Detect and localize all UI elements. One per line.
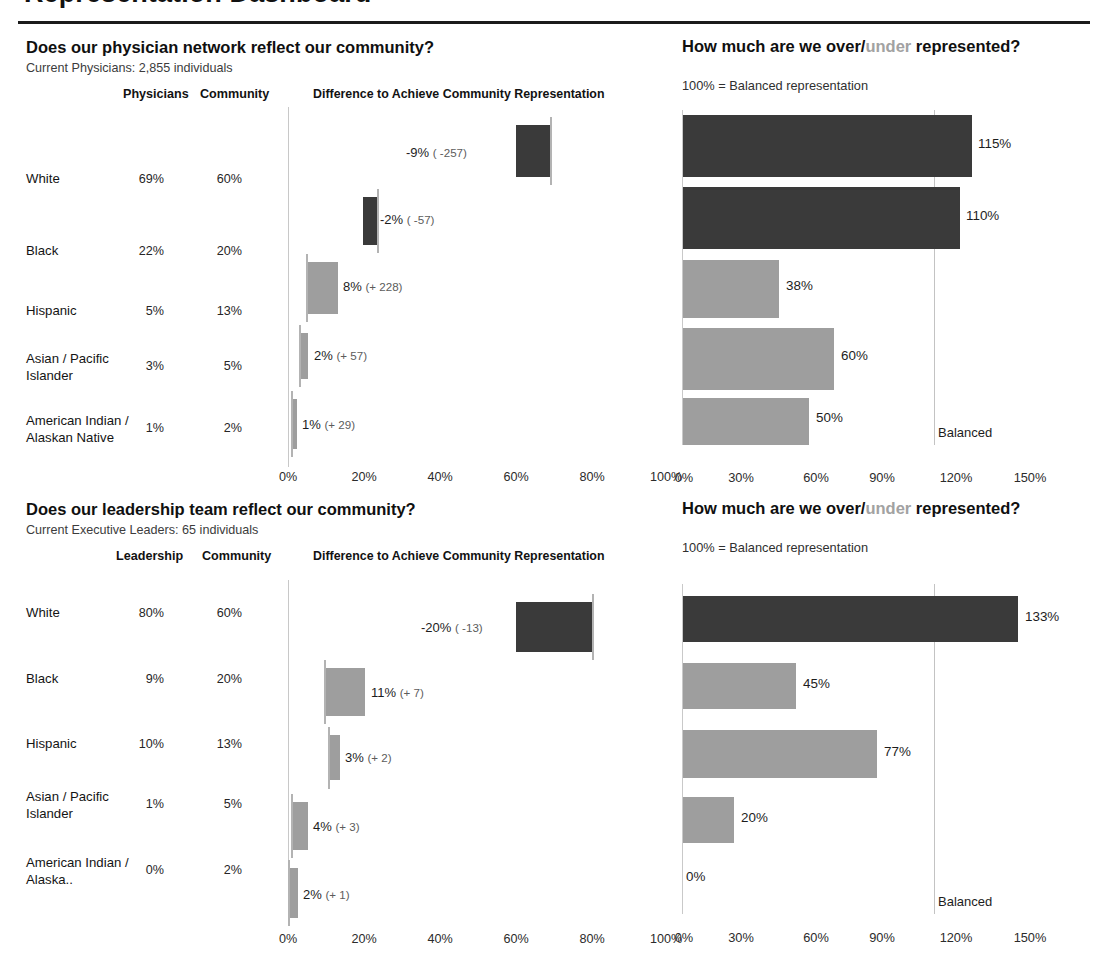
axis-tick-label: 150%	[1014, 930, 1047, 945]
target-tick	[299, 325, 301, 387]
difference-count: (+ 2)	[367, 751, 391, 764]
representation-bar	[683, 328, 834, 390]
difference-count: (+ 228)	[365, 280, 402, 293]
difference-count: ( -57)	[407, 213, 435, 226]
column-header-community: Community	[200, 87, 269, 101]
difference-label: -9% ( -257)	[406, 145, 467, 160]
difference-axis-ticks: 0% 20% 40% 60% 80% 100%	[288, 932, 678, 952]
axis-tick-label: 90%	[869, 470, 895, 485]
representation-value: 45%	[803, 676, 830, 691]
axis-tick-label: 90%	[869, 930, 895, 945]
difference-count: ( -257)	[433, 146, 467, 159]
difference-percent: 2%	[303, 887, 322, 902]
difference-bar	[516, 125, 550, 177]
axis-tick-label: 40%	[427, 470, 452, 484]
target-tick	[328, 727, 330, 789]
difference-percent: 1%	[302, 417, 321, 432]
row-value-community: 2%	[200, 863, 242, 877]
representation-bar	[683, 730, 877, 778]
panel-subheading: Current Physicians: 2,855 individuals	[26, 61, 233, 75]
difference-percent: 8%	[343, 279, 362, 294]
difference-count: (+ 57)	[336, 349, 367, 362]
axis-tick-label: 60%	[503, 932, 528, 946]
row-value-community: 20%	[200, 244, 242, 258]
row-value-community: 60%	[200, 172, 242, 186]
representation-axis-ticks: 0% 30% 60% 90% 120% 150%	[682, 930, 1042, 950]
representation-bar	[683, 663, 796, 709]
representation-heading: How much are we over/under represented?	[682, 37, 1020, 56]
difference-chart-header: Difference to Achieve Community Represen…	[313, 87, 604, 101]
axis-tick-label: 20%	[351, 932, 376, 946]
axis-tick-label: 120%	[940, 470, 973, 485]
difference-bar	[300, 333, 308, 379]
representation-bar	[683, 115, 972, 177]
difference-chart: -9% ( -257) -2% ( -57) 8% (+ 228) 2% (+ …	[288, 107, 668, 467]
difference-label: 3% (+ 2)	[345, 750, 392, 765]
panel-leadership: Does our leadership team reflect our com…	[0, 492, 1104, 976]
representation-bar	[683, 596, 1018, 642]
row-value-metric: 22%	[122, 244, 164, 258]
representation-value: 38%	[786, 278, 813, 293]
axis-tick-label: 60%	[803, 930, 829, 945]
difference-percent: 2%	[314, 348, 333, 363]
target-tick	[306, 254, 308, 322]
difference-bar	[329, 735, 340, 780]
row-value-community: 13%	[200, 737, 242, 751]
representation-value: 133%	[1025, 609, 1059, 624]
representation-bar	[683, 398, 809, 445]
difference-axis-ticks: 0% 20% 40% 60% 80% 100%	[288, 470, 678, 490]
difference-percent: 4%	[313, 819, 332, 834]
representation-value: 50%	[816, 410, 843, 425]
row-value-metric: 3%	[122, 359, 164, 373]
target-tick	[550, 117, 552, 185]
difference-label: 11% (+ 7)	[371, 685, 424, 700]
target-tick	[377, 189, 379, 253]
axis-tick-label: 20%	[351, 470, 376, 484]
representation-value: 110%	[966, 208, 999, 223]
target-tick	[288, 860, 290, 926]
heading-part-over: How much are we over/	[682, 37, 865, 55]
row-value-metric: 0%	[122, 863, 164, 877]
representation-bar	[683, 797, 734, 843]
row-value-metric: 5%	[122, 304, 164, 318]
row-value-metric: 80%	[122, 606, 164, 620]
difference-count: (+ 29)	[324, 418, 355, 431]
axis-tick-label: 60%	[503, 470, 528, 484]
axis-tick-label: 80%	[579, 470, 604, 484]
difference-percent: 3%	[345, 750, 364, 765]
heading-part-tail: represented?	[911, 37, 1020, 55]
difference-label: -2% ( -57)	[380, 212, 434, 227]
representation-value: 115%	[978, 136, 1011, 151]
difference-bar	[363, 197, 377, 245]
difference-bar	[307, 262, 338, 314]
difference-percent: 11%	[371, 685, 396, 700]
difference-chart: -20% ( -13) 11% (+ 7) 3% (+ 2) 4% (+ 3) …	[288, 580, 668, 925]
deck-title: Representation Dashboard	[24, 0, 371, 9]
representation-heading: How much are we over/under represented?	[682, 499, 1020, 518]
row-value-community: 20%	[200, 672, 242, 686]
difference-label: 1% (+ 29)	[302, 417, 355, 432]
difference-percent: -20%	[421, 620, 451, 635]
difference-count: (+ 3)	[335, 820, 359, 833]
difference-bar	[292, 802, 308, 850]
difference-count: (+ 1)	[325, 888, 349, 901]
balanced-label: Balanced	[938, 894, 992, 909]
heading-part-tail: represented?	[911, 499, 1020, 517]
representation-value: 20%	[741, 810, 768, 825]
target-tick	[324, 660, 326, 724]
row-value-community: 60%	[200, 606, 242, 620]
deck-title-clip: Representation Dashboard	[0, 0, 1104, 22]
difference-bar	[289, 868, 298, 918]
difference-chart-header: Difference to Achieve Community Represen…	[313, 549, 604, 563]
target-tick	[592, 594, 594, 660]
row-value-metric: 1%	[122, 421, 164, 435]
difference-bar	[516, 602, 592, 652]
axis-tick-label: 0%	[279, 470, 297, 484]
axis-tick-label: 30%	[728, 930, 754, 945]
axis-tick-label: 60%	[803, 470, 829, 485]
panel-heading: Does our physician network reflect our c…	[26, 38, 434, 57]
difference-percent: -9%	[406, 145, 429, 160]
heading-part-under: under	[865, 37, 911, 55]
difference-label: 8% (+ 228)	[343, 279, 402, 294]
difference-label: -20% ( -13)	[421, 620, 483, 635]
